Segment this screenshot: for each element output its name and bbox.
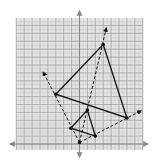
- large-triangle-vertex: [54, 92, 58, 96]
- large-triangle-vertex: [101, 43, 105, 47]
- dilation-diagram: [0, 0, 157, 168]
- small-triangle-vertex: [94, 134, 98, 138]
- large-triangle-vertex: [125, 116, 129, 120]
- center-point: [78, 141, 82, 145]
- small-triangle-vertex: [69, 126, 73, 130]
- small-triangle-vertex: [86, 108, 90, 112]
